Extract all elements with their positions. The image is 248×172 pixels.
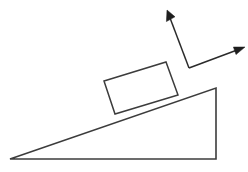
normal-force-vector	[166, 10, 189, 68]
applied-force-vector	[189, 47, 245, 68]
sliding-block	[104, 62, 178, 114]
applied-force-arrowhead	[233, 47, 245, 55]
normal-force-shaft	[169, 14, 189, 68]
physics-diagram	[0, 0, 248, 172]
applied-force-shaft	[189, 49, 241, 68]
diagram-canvas	[0, 0, 248, 172]
